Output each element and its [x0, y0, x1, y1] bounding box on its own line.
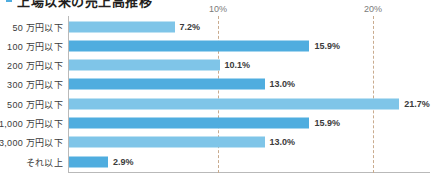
bar-value-label: 13.0%: [270, 79, 296, 89]
category-label: 3,000 万円以下: [0, 136, 63, 149]
bar: [69, 40, 309, 51]
bar-row: 100 万円以下15.9%: [0, 36, 437, 55]
bar-value-label: 7.2%: [180, 22, 201, 32]
bar-value-label: 15.9%: [314, 41, 340, 51]
bar: [69, 118, 309, 129]
bar: [69, 79, 265, 90]
bar-value-label: 15.9%: [314, 118, 340, 128]
category-label: 300 万円以下: [7, 78, 63, 91]
bar: [69, 137, 265, 148]
category-label: 50 万円以下: [12, 20, 63, 33]
bar-row: 300 万円以下13.0%: [0, 75, 437, 94]
bar-row: 1,000 万円以下15.9%: [0, 114, 437, 133]
bar-value-label: 2.9%: [113, 157, 134, 167]
x-axis-baseline: [68, 172, 430, 173]
gridline-label-20pct: 20%: [364, 4, 382, 14]
category-label: 1,000 万円以下: [0, 117, 63, 130]
category-label: 500 万円以下: [7, 97, 63, 110]
bar-row: 50 万円以下7.2%: [0, 17, 437, 36]
bar-row: 3,000 万円以下13.0%: [0, 133, 437, 152]
bar-row: 500 万円以下21.7%: [0, 94, 437, 113]
bar-value-label: 13.0%: [270, 137, 296, 147]
bar-value-label: 21.7%: [404, 99, 430, 109]
bar: [69, 21, 175, 32]
page-title: 上場以来の売上高推移: [17, 0, 152, 9]
bar-row: 200 万円以下10.1%: [0, 56, 437, 75]
title-marker-icon: [6, 0, 12, 2]
chart-page: 上場以来の売上高推移 10%20% 50 万円以下7.2%100 万円以下15.…: [0, 0, 437, 180]
category-label: それ以上: [26, 155, 63, 168]
bar-row: それ以上2.9%: [0, 152, 437, 171]
bar-value-label: 10.1%: [225, 60, 251, 70]
bar: [69, 98, 399, 109]
bar: [69, 60, 220, 71]
category-label: 100 万円以下: [7, 39, 63, 52]
category-label: 200 万円以下: [7, 59, 63, 72]
gridline-label-10pct: 10%: [209, 4, 227, 14]
plot-area: 10%20% 50 万円以下7.2%100 万円以下15.9%200 万円以下1…: [0, 10, 437, 180]
bar: [69, 156, 108, 167]
